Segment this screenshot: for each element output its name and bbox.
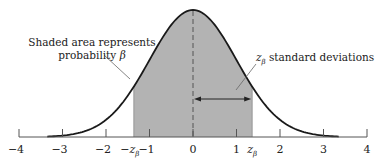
x-tick-label: 1 — [233, 143, 240, 156]
x-tick-label: 0 — [190, 143, 197, 156]
normal-distribution-diagram: −4−3−2−101234−zβzβ Shaded area represent… — [0, 0, 379, 162]
x-tick-label: −3 — [51, 143, 67, 156]
x-tick-label: −1 — [138, 143, 154, 156]
x-tick-label: −2 — [95, 143, 111, 156]
x-tick-label: −4 — [8, 143, 24, 156]
x-tick-label: 4 — [364, 143, 371, 156]
neg-z-beta-label: −zβ — [120, 143, 139, 158]
annotation-shaded-line2: probability β — [58, 49, 125, 61]
x-tick-label: 3 — [320, 143, 327, 156]
annotation-shaded-line1: Shaded area represents — [28, 36, 155, 48]
annotation-zbeta: zβ standard deviations — [255, 51, 374, 66]
x-tick-label: 2 — [277, 143, 284, 156]
z-beta-label: zβ — [246, 143, 257, 158]
